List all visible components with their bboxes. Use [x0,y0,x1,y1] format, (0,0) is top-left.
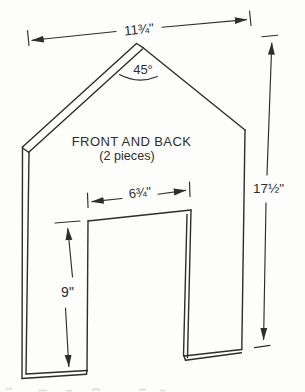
door-height-label: 9" [61,284,74,300]
door-left-edge [87,221,88,371]
dim-door-width: 6¾" [88,182,191,208]
dim-tick [190,182,191,197]
roof-left-thickness-edge [23,44,137,148]
dim-arrow-right [158,190,186,194]
left-leg-bottom-thickness-edge [22,374,87,378]
dim-arrow-left [92,199,122,202]
plan-drawing: 11¾" 45° FRONT AND BACK (2 pieces) 6¾" 1… [0,0,305,392]
top-width-label: 11¾" [123,21,155,39]
roof-right-edge [144,49,245,131]
door-right-thickness-edge [188,210,192,358]
right-leg-bottom-thickness-edge [186,353,242,360]
part-subtitle: (2 pieces) [99,149,154,163]
dim-tick [28,31,30,46]
dim-top-width: 11¾" [28,11,252,46]
dim-door-height: 9" [55,221,80,367]
part-title-block: FRONT AND BACK (2 pieces) [72,134,192,164]
peak-cap-edge [137,44,144,48]
dim-tick [88,193,89,208]
left-eave-corner [23,148,30,153]
cropped-print-artifact [6,389,165,391]
right-wall-edge [242,130,245,350]
dim-arrow-down [264,203,266,340]
overall-height-label: 17½" [253,181,284,196]
dim-tick [255,345,271,347]
house-outline [22,44,245,379]
dim-overall-height: 17½" [253,35,284,347]
door-opening [87,210,191,371]
left-leg-bottom-edge [26,371,87,375]
part-title: FRONT AND BACK [72,134,192,149]
dim-arrow-up [68,229,73,278]
dim-tick [250,11,252,26]
plan-figure: 11¾" 45° FRONT AND BACK (2 pieces) 6¾" 1… [0,0,305,392]
right-leg-bottom-edge [184,350,242,357]
left-wall-edge [26,152,29,374]
door-right-edge [184,215,188,356]
dim-arrow-up [267,43,272,175]
left-wall-thickness-edge [22,147,23,379]
dim-arrow-left [32,32,116,41]
roof-angle-label: 45° [133,62,153,77]
dim-tick [55,221,80,223]
dim-tick [262,35,278,37]
dim-arrow-right [162,20,247,28]
door-width-label: 6¾" [128,184,153,201]
dim-arrow-down [66,308,69,367]
right-leg-corner [184,356,186,360]
door-top-edge [88,210,191,221]
